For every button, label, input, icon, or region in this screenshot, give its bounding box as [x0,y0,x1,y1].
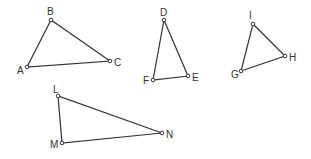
vertex-h [283,54,287,58]
vertex-n [160,131,164,135]
vertex-label-b: B [47,6,54,17]
vertex-f [151,78,155,82]
vertex-c [108,59,112,63]
triangle-abc: ABC [17,6,121,76]
vertex-label-g: G [231,69,239,80]
vertex-g [239,69,243,73]
vertex-label-f: F [143,75,149,86]
vertex-label-e: E [192,72,199,83]
triangle-edges [58,96,162,143]
vertex-label-h: H [289,52,296,63]
vertex-label-l: L [53,84,59,95]
triangle-edges [153,20,188,80]
vertex-label-a: A [17,65,24,76]
vertex-label-c: C [114,57,121,68]
triangles-diagram: ABCDEFGHILMN [0,0,311,159]
vertex-label-m: M [50,139,58,150]
triangle-ghi: GHI [231,10,296,80]
vertex-a [25,65,29,69]
triangle-def: DEF [143,7,199,86]
triangle-lmn: LMN [50,84,173,150]
vertex-b [49,18,53,22]
triangle-edges [241,24,285,71]
vertex-label-i: I [249,10,252,21]
vertex-i [251,22,255,26]
triangle-edges [27,20,110,67]
vertex-label-n: N [166,129,173,140]
vertex-m [60,141,64,145]
vertex-d [162,18,166,22]
vertex-label-d: D [160,7,167,18]
vertex-e [186,74,190,78]
